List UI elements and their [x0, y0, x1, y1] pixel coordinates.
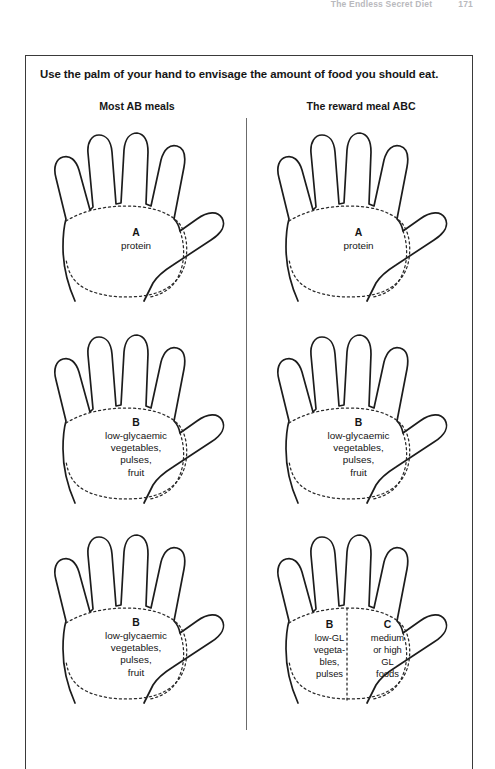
- hand-illustration: [36, 123, 236, 319]
- column-heading-right: The reward meal ABC: [248, 100, 474, 112]
- hand-illustration: [259, 123, 459, 319]
- hand-cell-right-row1: A protein: [246, 118, 471, 323]
- hand-diagram-grid: A protein A protein B: [26, 118, 471, 763]
- column-heading-left: Most AB meals: [26, 100, 248, 112]
- page-running-head: The Endless Secret Diet 171: [0, 0, 495, 10]
- running-head-page-number: 171: [458, 0, 473, 9]
- figure-caption: Use the palm of your hand to envisage th…: [40, 68, 460, 80]
- hand-cell-left-row3: B low-glycaemic vegetables, pulses, frui…: [26, 523, 246, 723]
- hand-cell-right-row2: B low-glycaemic vegetables, pulses, frui…: [246, 323, 471, 523]
- hand-cell-left-row2: B low-glycaemic vegetables, pulses, frui…: [26, 323, 246, 523]
- hand-illustration: [259, 525, 459, 721]
- hand-cell-right-row3: B low-GL vegeta- bles, pulses C medium o…: [246, 523, 471, 723]
- figure-box: Use the palm of your hand to envisage th…: [25, 55, 473, 769]
- hand-illustration: [36, 325, 236, 521]
- hand-illustration: [36, 525, 236, 721]
- hand-cell-left-row1: A protein: [26, 118, 246, 323]
- running-head-title: The Endless Secret Diet: [331, 0, 432, 9]
- hand-illustration: [259, 325, 459, 521]
